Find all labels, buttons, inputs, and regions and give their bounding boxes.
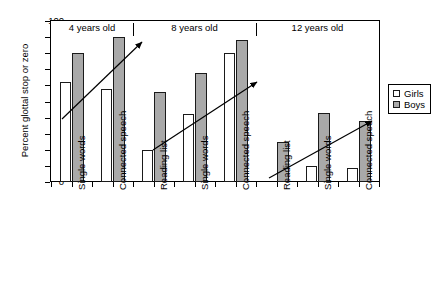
x-tick-mark xyxy=(72,182,73,187)
legend-item-boys: Boys xyxy=(393,99,425,110)
legend-label-girls: Girls xyxy=(404,88,424,99)
legend-label-boys: Boys xyxy=(404,99,425,110)
bar-girls xyxy=(101,89,113,182)
x-tick-mark xyxy=(215,182,216,187)
x-tick-mark xyxy=(277,182,278,187)
x-tick-mark xyxy=(133,182,134,187)
x-axis-label: Connected speech xyxy=(363,111,374,190)
x-tick-mark xyxy=(174,182,175,187)
x-axis-label: Single words xyxy=(76,136,87,190)
legend-swatch-girls-icon xyxy=(393,90,400,97)
bar-girls xyxy=(60,82,72,182)
x-tick-mark xyxy=(297,182,298,187)
bar-girls xyxy=(142,150,154,182)
x-tick-mark xyxy=(154,182,155,187)
x-tick-mark xyxy=(236,182,237,187)
x-axis-label: Connected speech xyxy=(240,111,251,190)
x-tick-mark xyxy=(51,182,52,187)
chart-figure: Percent glottal stop or zero 01020304050… xyxy=(0,0,447,291)
x-tick-mark xyxy=(256,182,257,187)
x-tick-mark xyxy=(195,182,196,187)
legend: Girls Boys xyxy=(388,84,431,114)
x-tick-mark xyxy=(318,182,319,187)
bar-girls xyxy=(306,166,318,182)
x-tick-mark xyxy=(359,182,360,187)
legend-swatch-boys-icon xyxy=(393,101,400,108)
x-tick-mark xyxy=(338,182,339,187)
x-axis-label: Connected speech xyxy=(117,111,128,190)
x-axis-label: Single words xyxy=(199,136,210,190)
y-axis-title: Percent glottal stop or zero xyxy=(19,13,30,188)
y-tick-mark xyxy=(45,182,50,183)
bar-girls xyxy=(224,53,236,182)
x-tick-mark xyxy=(379,182,380,187)
x-axis-label: Single words xyxy=(322,136,333,190)
legend-item-girls: Girls xyxy=(393,88,425,99)
x-axis-label: Reading list xyxy=(281,140,292,190)
x-tick-mark xyxy=(113,182,114,187)
bar-girls xyxy=(183,114,195,182)
x-axis-label: Reading list xyxy=(158,140,169,190)
x-tick-mark xyxy=(92,182,93,187)
bar-girls xyxy=(347,168,359,182)
